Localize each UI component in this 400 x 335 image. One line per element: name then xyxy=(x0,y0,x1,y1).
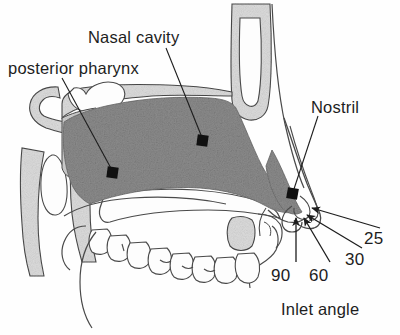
label-nostril: Nostril xyxy=(311,99,359,116)
arrow-25 xyxy=(312,208,380,228)
label-angle-90: 90 xyxy=(271,267,290,284)
tooth xyxy=(235,253,259,283)
label-angle-60: 60 xyxy=(309,267,328,284)
marker-nasal-cavity xyxy=(196,134,208,146)
label-angle-30: 30 xyxy=(345,251,364,268)
nasal-airway-illustration xyxy=(0,0,400,335)
label-angle-25: 25 xyxy=(364,230,383,247)
maxillary-tuberosity xyxy=(227,217,255,251)
tooth xyxy=(214,257,238,283)
frontal-sinus-cavity xyxy=(239,18,261,106)
label-inlet-angle: Inlet angle xyxy=(281,301,359,318)
posterior-pharynx-wall xyxy=(21,148,45,276)
philtrum-notch xyxy=(264,222,271,236)
tooth xyxy=(127,242,151,268)
tooth xyxy=(148,248,172,274)
figure-root: Nasal cavity posterior pharynx Nostril I… xyxy=(0,0,400,335)
arrow-60 xyxy=(304,218,330,262)
marker-nostril xyxy=(286,187,299,200)
marker-posterior-pharynx xyxy=(106,166,118,178)
label-posterior-pharynx: posterior pharynx xyxy=(8,60,139,77)
label-nasal-cavity: Nasal cavity xyxy=(88,29,179,46)
